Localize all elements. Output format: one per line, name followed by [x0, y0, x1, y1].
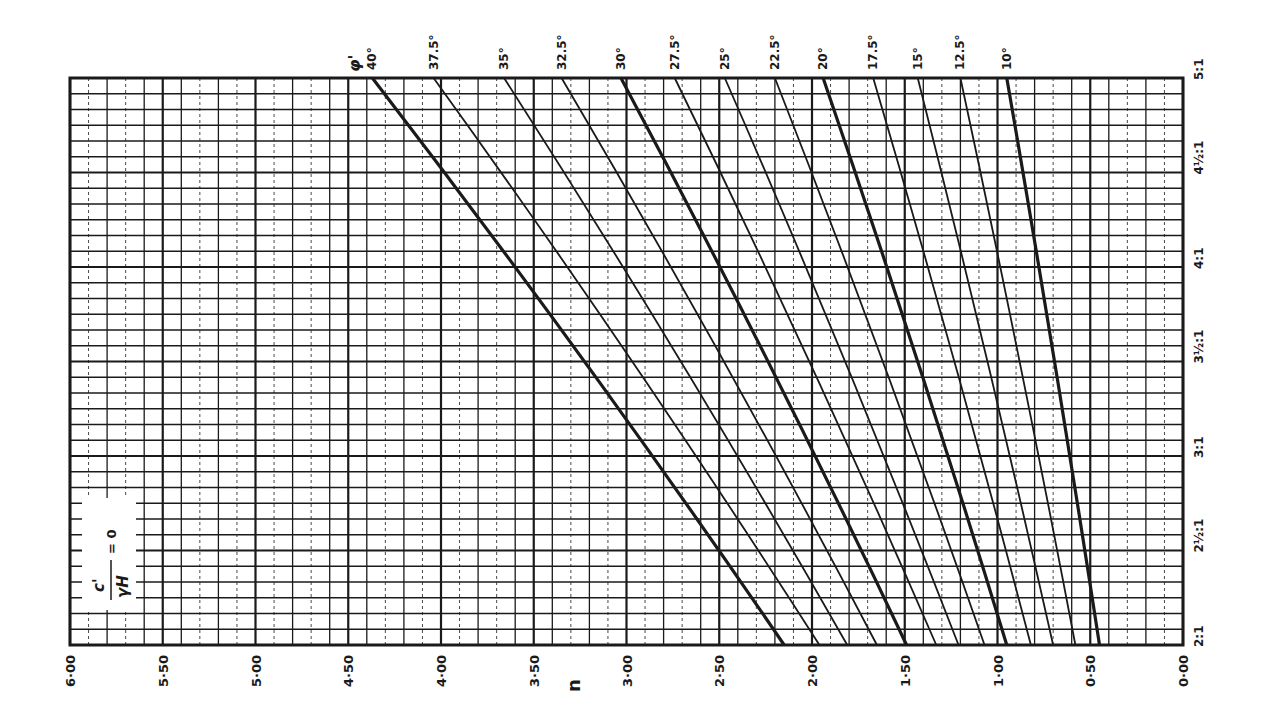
x-axis-title: n — [563, 679, 584, 692]
x-tick-label: 5·50 — [156, 655, 171, 687]
stability-chart: 6·005·505·004·504·003·503·002·502·001·50… — [0, 0, 1266, 726]
x-axis-tick-labels: 6·005·505·004·504·003·503·002·502·001·50… — [63, 655, 1191, 687]
x-tick-label: 1·50 — [898, 655, 913, 687]
y-tick-label: 5:1 — [1192, 59, 1206, 81]
x-tick-label: 3·00 — [620, 655, 635, 687]
phi-legend-title: φ' — [345, 55, 364, 72]
y-tick-label: 3:1 — [1192, 437, 1206, 459]
x-tick-label: 4·00 — [434, 655, 449, 687]
y-tick-label: 4½:1 — [1192, 141, 1206, 175]
x-tick-label: 2·50 — [712, 655, 727, 687]
annotation-equals-zero: = 0 — [104, 530, 119, 554]
x-tick-label: 3·50 — [527, 655, 542, 687]
cohesion-annotation: c' γH = 0 — [82, 498, 136, 610]
phi-series-labels: 40°37.5°35°32.5°30°27.5°25°22.5°20°17.5°… — [365, 34, 1013, 70]
x-tick-label: 2·00 — [805, 655, 820, 687]
phi-series-label: 35° — [497, 47, 511, 70]
x-tick-label: 0·00 — [1176, 655, 1191, 687]
phi-series-label: 10° — [1000, 47, 1014, 70]
phi-series-label: 25° — [718, 47, 732, 70]
grid-lines — [70, 78, 1183, 645]
y-axis-tick-labels: 2:12½:13:13½:14:14½:15:1 — [1192, 59, 1206, 648]
x-tick-label: 6·00 — [63, 655, 78, 687]
phi-series-label: 32.5° — [555, 34, 569, 70]
x-tick-label: 4·50 — [341, 655, 356, 687]
y-tick-label: 2:1 — [1192, 626, 1206, 648]
phi-series-label: 20° — [816, 47, 830, 70]
annotation-denominator: γH — [114, 575, 132, 598]
phi-series-label: 40° — [365, 47, 379, 70]
x-tick-label: 5·00 — [249, 655, 264, 687]
phi-series-label: 37.5° — [427, 34, 441, 70]
y-tick-label: 2½:1 — [1192, 519, 1206, 553]
phi-series-label: 22.5° — [768, 34, 782, 70]
annotation-numerator: c' — [90, 579, 108, 592]
y-tick-label: 3½:1 — [1192, 330, 1206, 364]
y-tick-label: 4:1 — [1192, 248, 1206, 270]
phi-series-label: 17.5° — [866, 34, 880, 70]
phi-series-label: 30° — [614, 47, 628, 70]
phi-series-label: 27.5° — [668, 34, 682, 70]
x-tick-label: 1·00 — [991, 655, 1006, 687]
phi-series-label: 12.5° — [953, 34, 967, 70]
phi-series-label: 15° — [911, 47, 925, 70]
x-tick-label: 0·50 — [1083, 655, 1098, 687]
